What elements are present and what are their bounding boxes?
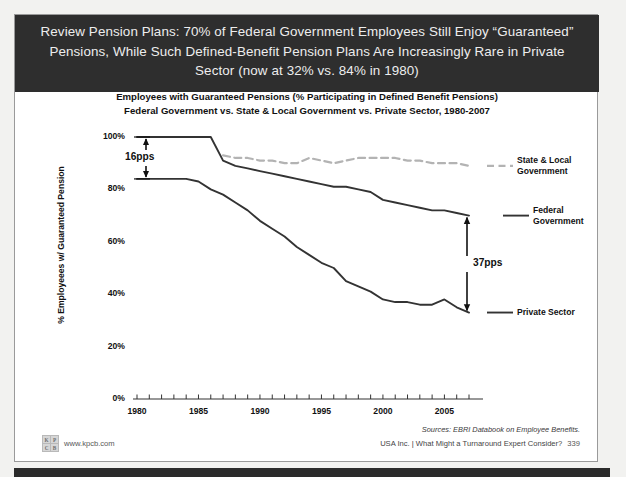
- x-tick-2000: 2000: [363, 406, 403, 416]
- screenshot-root: Review Pension Plans: 70% of Federal Gov…: [0, 0, 626, 477]
- x-tick-1990: 1990: [240, 406, 280, 416]
- bottom-band: [14, 468, 610, 477]
- logo-letter-k: K: [43, 436, 50, 443]
- series-line-1: [223, 155, 469, 165]
- y-tick-0%: 0%: [85, 393, 125, 403]
- series-line-2: [137, 179, 469, 313]
- annotation-37pps: 37pps: [473, 257, 502, 268]
- kpcb-url: www.kpcb.com: [64, 439, 115, 448]
- slide-footer: USA Inc. | What Might a Turnaround Exper…: [265, 439, 580, 448]
- source-text: Sources: EBRI Databook on Employee Benef…: [422, 425, 580, 434]
- source-note: Sources: EBRI Databook on Employee Benef…: [315, 425, 580, 434]
- chart-subtitle: Federal Government vs. State & Local Gov…: [55, 104, 559, 118]
- y-tick-60%: 60%: [85, 236, 125, 246]
- logo-letter-b: B: [51, 444, 58, 451]
- kpcb-logo-icon: K P C B: [42, 435, 59, 452]
- x-tick-1995: 1995: [301, 406, 341, 416]
- legend-label-2: Private Sector: [517, 307, 575, 319]
- y-tick-80%: 80%: [85, 183, 125, 193]
- footer-text: USA Inc. | What Might a Turnaround Exper…: [380, 439, 562, 448]
- annotation-16pps: 16pps: [125, 151, 154, 162]
- y-tick-40%: 40%: [85, 288, 125, 298]
- chart-title: Employees with Guaranteed Pensions (% Pa…: [55, 90, 559, 104]
- slide: Review Pension Plans: 70% of Federal Gov…: [14, 14, 598, 462]
- y-tick-100%: 100%: [85, 131, 125, 141]
- logo-letter-c: C: [43, 444, 50, 451]
- kpcb-brand: K P C B www.kpcb.com: [42, 435, 115, 452]
- page-number: 339: [567, 439, 580, 448]
- slide-header-band: Review Pension Plans: 70% of Federal Gov…: [15, 15, 599, 92]
- y-axis-label: % Employeees w/ Guaranteed Pension: [56, 155, 66, 335]
- series-line-0: [137, 137, 469, 216]
- logo-letter-p: P: [51, 436, 58, 443]
- x-tick-2005: 2005: [424, 406, 464, 416]
- slide-header-title: Review Pension Plans: 70% of Federal Gov…: [33, 22, 581, 81]
- x-tick-1985: 1985: [178, 406, 218, 416]
- legend-label-1: State & LocalGovernment: [517, 155, 571, 178]
- legend-label-0: FederalGovernment: [533, 205, 584, 228]
- x-tick-1980: 1980: [117, 406, 157, 416]
- y-tick-20%: 20%: [85, 341, 125, 351]
